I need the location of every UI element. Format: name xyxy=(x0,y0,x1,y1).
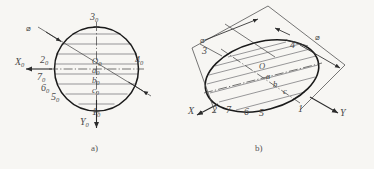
technical-drawing-canvas: 30 ⌀ X0 20 40 70 60 50 10 Y0 O0 a0 b0 c0… xyxy=(0,0,374,169)
fig-b-caption: b) xyxy=(255,144,263,153)
fig-b-center-o-label: O xyxy=(259,62,265,71)
fig-a-center-b-label: b0 xyxy=(92,76,100,85)
fig-a-caption: a) xyxy=(91,144,98,153)
fig-b-point-1-label: 1 xyxy=(298,104,303,114)
fig-a-point-5-label: 50 xyxy=(51,92,59,102)
fig-a-point-4-label: 40 xyxy=(135,55,143,65)
fig-b-chord-lines xyxy=(207,42,318,110)
fig-a-axis-x-sub: 0 xyxy=(21,61,24,68)
fig-b-center-b-label: b xyxy=(273,80,277,89)
fig-a-point-2-sub: 0 xyxy=(45,59,48,66)
drawing-svg xyxy=(0,0,374,169)
fig-a-center-a-label: a0 xyxy=(92,66,100,75)
fig-b-dimension-frame xyxy=(192,6,345,112)
fig-a-point-2-label: 20 xyxy=(40,55,48,65)
fig-b-point-6-label: 6 xyxy=(244,107,249,117)
fig-b-centerline-2 xyxy=(221,49,300,103)
fig-a-diameter-label: ⌀ xyxy=(26,23,31,33)
fig-a-axis-y-sub: 0 xyxy=(86,121,89,128)
fig-b-point-7-label: 7 xyxy=(226,105,231,115)
fig-b-point-4-label: 4 xyxy=(290,40,295,50)
fig-a-dimension-arrow-left xyxy=(46,32,61,42)
fig-b-axis-x-label: X xyxy=(188,106,194,116)
fig-a-point-5-sub: 0 xyxy=(56,96,59,103)
fig-a-point-1-sub: 0 xyxy=(97,111,100,118)
fig-a-point-6-sub: 0 xyxy=(46,87,49,94)
fig-b-center-c-label: c xyxy=(283,87,287,96)
fig-a-point-6-label: 60 xyxy=(41,83,49,93)
fig-b-point-3-label: 3 xyxy=(202,46,207,56)
fig-b-dimension-arrow-left xyxy=(205,19,258,40)
fig-b-y-axis-arrow xyxy=(310,97,338,113)
fig-b-diameter-right-label: ⌀ xyxy=(315,32,320,42)
fig-a-point-7-label: 70 xyxy=(37,72,45,82)
fig-a-point-1-label: 10 xyxy=(92,107,100,117)
fig-b-axis-y-label: Y xyxy=(340,108,346,118)
fig-b-dimension-arrow-top xyxy=(275,28,290,35)
fig-b-point-5-label: 5 xyxy=(259,108,264,118)
fig-a-point-4-sub: 0 xyxy=(140,59,143,66)
fig-a-axis-y-label: Y0 xyxy=(80,117,89,127)
fig-a-axis-x-label: X0 xyxy=(15,57,24,67)
fig-a-center-c-sub: 0 xyxy=(96,89,99,96)
fig-b-diameter-left-label: ⌀ xyxy=(200,35,205,45)
fig-b-center-a-label: a xyxy=(266,72,270,81)
fig-a-center-c-label: c0 xyxy=(92,86,99,95)
fig-a-point-3-label: 30 xyxy=(90,12,98,22)
fig-a-center-b-sub: 0 xyxy=(96,79,99,86)
fig-a-point-3-sub: 0 xyxy=(95,16,98,23)
fig-b-point-2-label: 2 xyxy=(212,105,217,115)
fig-a-center-a-sub: 0 xyxy=(96,69,99,76)
